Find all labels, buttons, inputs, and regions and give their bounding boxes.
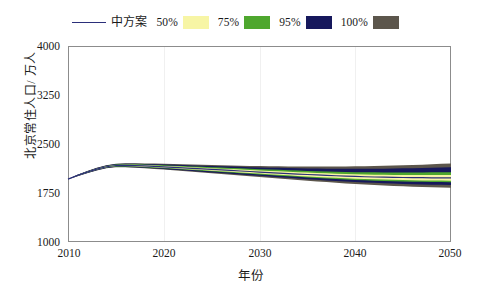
population-projection-chart-figure: 中方案 50% 75% 95% 100% 4000 3250 2500 1750… xyxy=(0,0,480,296)
chart-data-layer xyxy=(0,0,480,296)
